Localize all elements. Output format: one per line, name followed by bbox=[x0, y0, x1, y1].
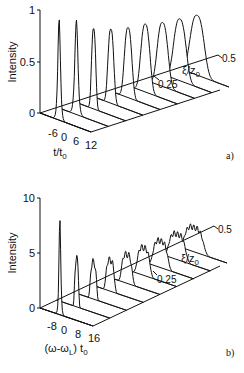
y-axis-label: Intensity bbox=[6, 41, 18, 82]
x-tick-label: 8 bbox=[75, 328, 81, 340]
x-tick-label: 12 bbox=[85, 139, 97, 151]
y-tick-label: 0 bbox=[29, 302, 35, 314]
trace-line bbox=[40, 20, 91, 132]
z-tick-label: 0.25 bbox=[158, 79, 178, 90]
figure: 1 0.5 0 Intensity 0.25 0.5 ξ/z0 -6 0 6 1… bbox=[0, 0, 244, 373]
trace-line bbox=[109, 28, 160, 110]
panel-tag-a: a) bbox=[226, 150, 234, 162]
trace-line bbox=[75, 29, 126, 121]
z-tick-label: 0.25 bbox=[157, 274, 177, 285]
y-tick-label: 5 bbox=[29, 247, 35, 259]
z-axis-label: ξ/z0 bbox=[181, 252, 199, 267]
z-tick-label: 0.5 bbox=[222, 53, 236, 64]
trace-line bbox=[92, 29, 143, 115]
z-tick-label: 0.5 bbox=[218, 224, 232, 235]
panel-tag-b: b) bbox=[226, 347, 234, 359]
panel-a: 1 0.5 0 Intensity 0.25 0.5 ξ/z0 -6 0 6 1… bbox=[6, 4, 236, 162]
y-tick-label: 1 bbox=[29, 4, 35, 16]
trace-line bbox=[57, 255, 110, 318]
x-tick-label: 0 bbox=[61, 324, 67, 336]
y-tick-label: 0 bbox=[29, 107, 35, 119]
trace-line bbox=[57, 20, 108, 126]
x-tick-label: -8 bbox=[47, 320, 57, 332]
x-tick-label: -6 bbox=[48, 127, 58, 139]
y-axis-label: Intensity bbox=[6, 232, 18, 273]
panel-b-traces bbox=[40, 221, 227, 326]
y-tick-label: 0.5 bbox=[20, 56, 35, 68]
trace-line bbox=[74, 259, 127, 311]
x-axis-label: t/t0 bbox=[53, 146, 67, 161]
x-tick-label: 6 bbox=[73, 135, 79, 147]
y-tick-label: 10 bbox=[23, 192, 35, 204]
x-tick-label: 16 bbox=[88, 332, 100, 344]
panel-a-traces bbox=[40, 15, 229, 132]
x-axis-label: (ω-ωL) t0 bbox=[44, 342, 88, 357]
x-tick-label: 0 bbox=[61, 131, 67, 143]
z-axis bbox=[40, 226, 214, 308]
panel-b: 10 5 0 Intensity 0.25 0.5 ξ/z0 -8 0 8 16… bbox=[6, 192, 234, 359]
